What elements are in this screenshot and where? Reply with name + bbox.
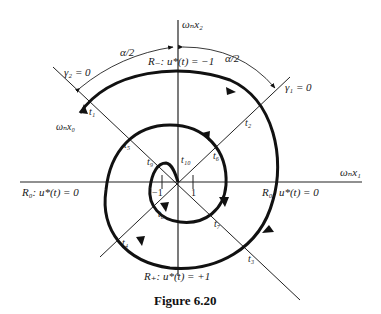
time-label-t4: t₄ — [122, 237, 129, 248]
direction-arrow — [136, 236, 145, 246]
gamma2-label: γ₂ = 0 — [64, 66, 91, 78]
x1-axis-label: ωₙx₁ — [340, 166, 361, 178]
region-r-zero-right-label: R₀: u*(t) = 0 — [261, 186, 319, 199]
time-label-t5: t₅ — [124, 139, 131, 150]
time-label-t2: t₂ — [245, 117, 252, 128]
x2-axis-label: ωₙx₂ — [182, 18, 203, 30]
trajectory-outer — [80, 71, 278, 268]
figure-caption: Figure 6.20 — [154, 293, 217, 308]
direction-arrow — [226, 87, 236, 95]
time-label-t3: t₃ — [248, 253, 255, 264]
time-label-t1: t₁ — [89, 106, 95, 117]
alpha-half-right-label: α/2 — [225, 52, 240, 64]
phase-plane-diagram: −1 1 ωₙx₂ ωₙx₁ R₋: u*(t) = −1 R₊: u*(t) … — [0, 0, 381, 314]
gamma1-switching-line — [100, 77, 290, 257]
alpha-half-left-label: α/2 — [120, 46, 135, 58]
time-label-t10: t₁₀ — [181, 154, 191, 165]
time-label-t9: t₉ — [147, 156, 154, 167]
tick-label-neg-one: −1 — [152, 187, 163, 198]
region-r-zero-left-label: R₀: u*(t) = 0 — [21, 186, 79, 199]
direction-arrow — [262, 225, 274, 233]
time-label-t8: t₈ — [158, 208, 165, 219]
gamma1-label: γ₁ = 0 — [285, 81, 312, 93]
trajectory-inner — [150, 163, 178, 188]
region-r-minus-label: R₋: u*(t) = −1 — [147, 55, 214, 68]
initial-state-label: ωₙx₀ — [56, 121, 76, 132]
region-r-plus-label: R₊: u*(t) = +1 — [143, 270, 210, 283]
tick-label-pos-one: 1 — [191, 187, 196, 198]
time-label-t7: t₇ — [214, 218, 221, 229]
time-label-t6: t₆ — [213, 150, 220, 161]
